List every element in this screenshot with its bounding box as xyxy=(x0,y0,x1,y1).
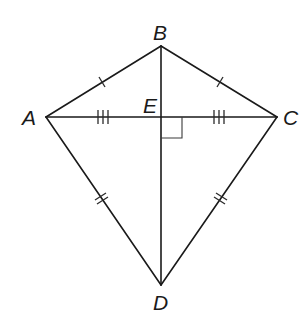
right-angle-marker xyxy=(161,117,182,138)
label-e: E xyxy=(143,94,158,117)
kite-diagram: B A C E D xyxy=(0,0,306,332)
segment-da xyxy=(46,117,161,285)
label-d: D xyxy=(153,291,168,314)
tick-bc xyxy=(217,77,223,87)
label-b: B xyxy=(153,21,167,44)
label-a: A xyxy=(20,106,36,129)
segment-bc xyxy=(161,46,277,117)
segment-cd xyxy=(161,117,277,285)
label-c: C xyxy=(283,106,299,129)
